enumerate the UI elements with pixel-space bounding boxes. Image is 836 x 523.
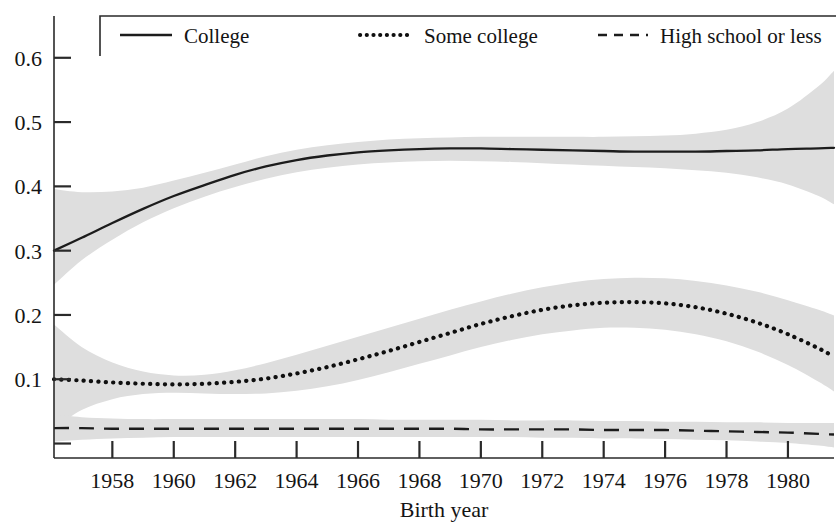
x-tick-label: 1980 [766, 468, 810, 493]
y-axis-tick-labels: 0.10.20.30.40.50.6 [15, 46, 43, 392]
x-tick-label: 1976 [643, 468, 687, 493]
y-tick-label: 0.3 [15, 239, 43, 264]
x-tick-label: 1970 [459, 468, 503, 493]
x-axis-title: Birth year [400, 497, 489, 522]
x-tick-label: 1964 [275, 468, 319, 493]
x-tick-label: 1968 [397, 468, 441, 493]
x-tick-label: 1966 [336, 468, 380, 493]
y-tick-label: 0.6 [15, 46, 43, 71]
band-college [54, 71, 834, 285]
confidence-bands [54, 71, 834, 448]
legend-label-college: College [184, 24, 249, 48]
figure-container: 0.10.20.30.40.50.6 195819601962196419661… [0, 0, 836, 523]
y-tick-label: 0.4 [15, 174, 43, 199]
band-some-college [54, 278, 834, 429]
x-tick-label: 1958 [90, 468, 134, 493]
x-tick-label: 1962 [213, 468, 257, 493]
x-tick-label: 1960 [152, 468, 196, 493]
x-tick-label: 1972 [520, 468, 564, 493]
x-tick-label: 1974 [582, 468, 626, 493]
x-axis-ticks [112, 441, 788, 458]
education-share-by-birth-year-chart: 0.10.20.30.40.50.6 195819601962196419661… [0, 0, 836, 523]
x-axis-tick-labels: 1958196019621964196619681970197219741976… [90, 468, 810, 493]
x-tick-label: 1978 [705, 468, 749, 493]
y-tick-label: 0.5 [15, 110, 43, 135]
y-tick-label: 0.2 [15, 303, 43, 328]
legend-label-some-college: Some college [424, 24, 538, 48]
legend: College Some college High school or less [100, 16, 836, 56]
y-tick-label: 0.1 [15, 367, 43, 392]
legend-label-high-school-or-less: High school or less [660, 24, 822, 48]
